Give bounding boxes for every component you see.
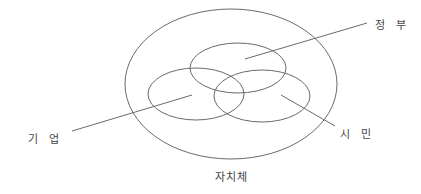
venn-diagram: [0, 0, 421, 194]
leader-line-government: [245, 23, 367, 59]
leader-line-citizens: [281, 95, 335, 126]
label-citizens: 시 민: [340, 125, 376, 141]
label-local-government: 자치체: [215, 168, 248, 184]
ellipse-business: [148, 68, 244, 120]
label-business: 기 업: [28, 130, 64, 146]
label-government: 정 부: [375, 16, 411, 32]
ellipse-citizens: [214, 70, 310, 122]
leader-line-business: [72, 95, 192, 131]
